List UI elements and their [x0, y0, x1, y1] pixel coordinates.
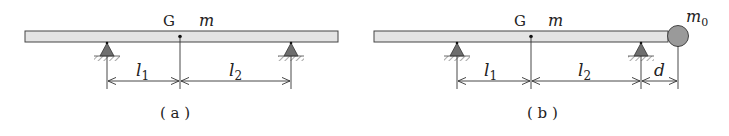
- diagram-canvas: G m l1 l2 ( a ) m0 G: [0, 0, 729, 136]
- caption-a: ( a ): [160, 104, 190, 122]
- end-mass-ball: [668, 26, 689, 47]
- figure-b: m0 G m l1 l2 d ( b ): [374, 7, 708, 122]
- beam: [374, 31, 668, 42]
- mass-label: m: [199, 11, 214, 30]
- center-label: G: [163, 12, 175, 30]
- end-mass-label: m0: [686, 7, 708, 29]
- dim-label-l1: l1: [484, 60, 497, 83]
- center-label: G: [514, 12, 526, 30]
- caption-b: ( b ): [527, 104, 558, 122]
- dim-label-l2: l2: [229, 60, 242, 83]
- mass-label: m: [548, 11, 563, 30]
- figure-a: G m l1 l2 ( a ): [25, 11, 338, 122]
- dim-label-l1: l1: [136, 60, 149, 83]
- dim-label-l2: l2: [578, 60, 591, 83]
- dim-label-d: d: [654, 60, 665, 80]
